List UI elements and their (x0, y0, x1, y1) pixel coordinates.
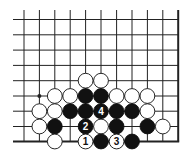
black-stone-icon (109, 119, 124, 134)
white-stone (32, 104, 47, 119)
black-stone (109, 104, 124, 119)
star-points (37, 94, 41, 98)
black-stone-icon (125, 104, 140, 119)
white-stone-icon (47, 104, 62, 119)
white-stone (94, 119, 109, 134)
white-stone-1: 1 (78, 134, 93, 149)
white-stone (78, 73, 93, 88)
white-stone-icon (155, 119, 170, 134)
white-stone-icon (32, 119, 47, 134)
white-stone-icon (78, 73, 93, 88)
black-stone-icon (94, 134, 109, 149)
white-stone (140, 89, 155, 104)
white-stone (94, 73, 109, 88)
move-number-label: 1 (83, 136, 89, 147)
black-stone-icon (78, 89, 93, 104)
white-stone (125, 89, 140, 104)
go-board: 4213 (0, 0, 191, 156)
move-number-label: 4 (98, 106, 104, 117)
white-stone (155, 119, 170, 134)
white-stone (47, 89, 62, 104)
white-stone (47, 134, 62, 149)
black-stone (94, 134, 109, 149)
white-stone (47, 104, 62, 119)
black-stone-icon (78, 104, 93, 119)
black-stone (63, 104, 78, 119)
white-stone-icon (140, 104, 155, 119)
black-stone (125, 134, 140, 149)
black-stone-4: 4 (94, 104, 109, 119)
white-stone (32, 119, 47, 134)
black-stone-icon (125, 134, 140, 149)
white-stone-icon (125, 89, 140, 104)
white-stone-icon (47, 134, 62, 149)
white-stone-icon (94, 73, 109, 88)
black-stone (47, 119, 62, 134)
white-stone-icon (63, 89, 78, 104)
white-stone (140, 104, 155, 119)
star-point-icon (37, 94, 41, 98)
black-stone (140, 119, 155, 134)
stones-layer: 4213 (32, 73, 170, 149)
white-stone (63, 89, 78, 104)
move-number-label: 3 (114, 136, 120, 147)
black-stone (109, 119, 124, 134)
black-stone-icon (63, 104, 78, 119)
black-stone-2: 2 (78, 119, 93, 134)
black-stone (78, 89, 93, 104)
black-stone-icon (109, 104, 124, 119)
black-stone (125, 104, 140, 119)
white-stone-icon (47, 89, 62, 104)
black-stone (94, 89, 109, 104)
black-stone-icon (47, 119, 62, 134)
black-stone-icon (94, 89, 109, 104)
white-stone-icon (109, 89, 124, 104)
white-stone-3: 3 (109, 134, 124, 149)
move-number-label: 2 (83, 121, 89, 132)
white-stone-icon (94, 119, 109, 134)
white-stone (109, 89, 124, 104)
black-stone (78, 104, 93, 119)
white-stone-icon (140, 89, 155, 104)
black-stone-icon (140, 119, 155, 134)
white-stone-icon (32, 104, 47, 119)
